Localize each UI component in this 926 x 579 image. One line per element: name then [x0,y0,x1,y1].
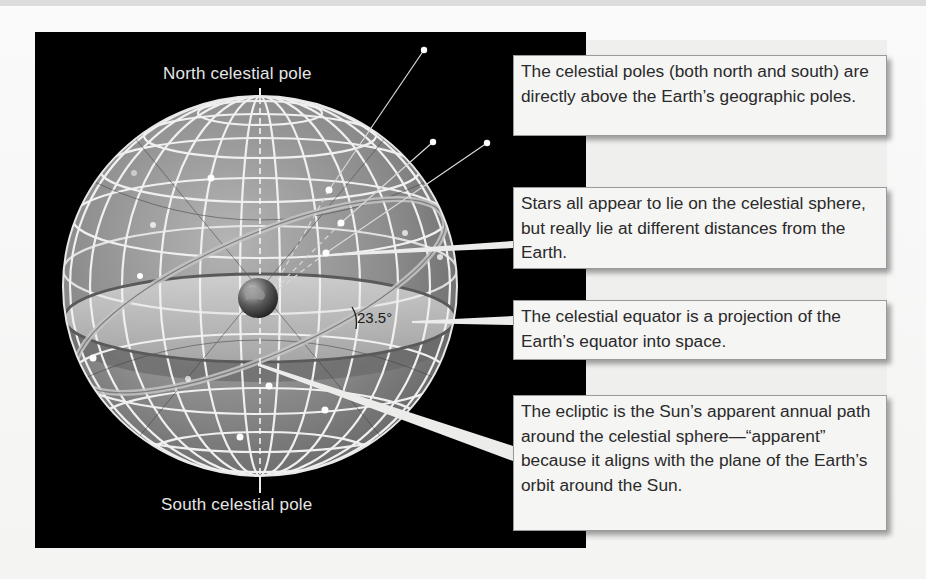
star-icon [421,47,427,53]
star-icon [326,187,333,194]
north-celestial-pole-label: North celestial pole [163,64,312,84]
star-icon [402,230,408,236]
callout-ecliptic: The ecliptic is the Sun’s apparent annua… [513,395,887,531]
star-icon [237,434,244,441]
star-icon [208,175,215,182]
south-celestial-pole-label: South celestial pole [161,495,312,515]
star-icon [131,170,137,176]
star-icon [430,139,436,145]
callout-text: The celestial equator is a projection of… [521,306,841,351]
star-icon [266,383,273,390]
star-icon [484,140,490,146]
star-icon [90,355,97,362]
star-icon [185,376,191,382]
callout-celestial-equator: The celestial equator is a projection of… [513,300,887,360]
callout-celestial-poles: The celestial poles (both north and sout… [513,55,887,136]
callout-text: The ecliptic is the Sun’s apparent annua… [521,401,870,495]
star-icon [437,254,443,260]
star-icon [150,222,156,228]
earth-icon [238,278,278,318]
callout-text: Stars all appear to lie on the celestial… [521,193,866,262]
ecliptic-angle-label: 23.5° [357,309,392,326]
callout-text: The celestial poles (both north and sout… [521,61,869,106]
star-icon [323,250,330,257]
star-icon [322,407,329,414]
star-icon [338,220,345,227]
callout-stars: Stars all appear to lie on the celestial… [513,187,887,269]
star-icon [137,273,143,279]
